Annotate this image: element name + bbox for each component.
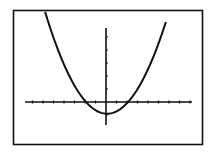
graph-screen: [0, 0, 211, 152]
screen-frame: [14, 11, 203, 145]
